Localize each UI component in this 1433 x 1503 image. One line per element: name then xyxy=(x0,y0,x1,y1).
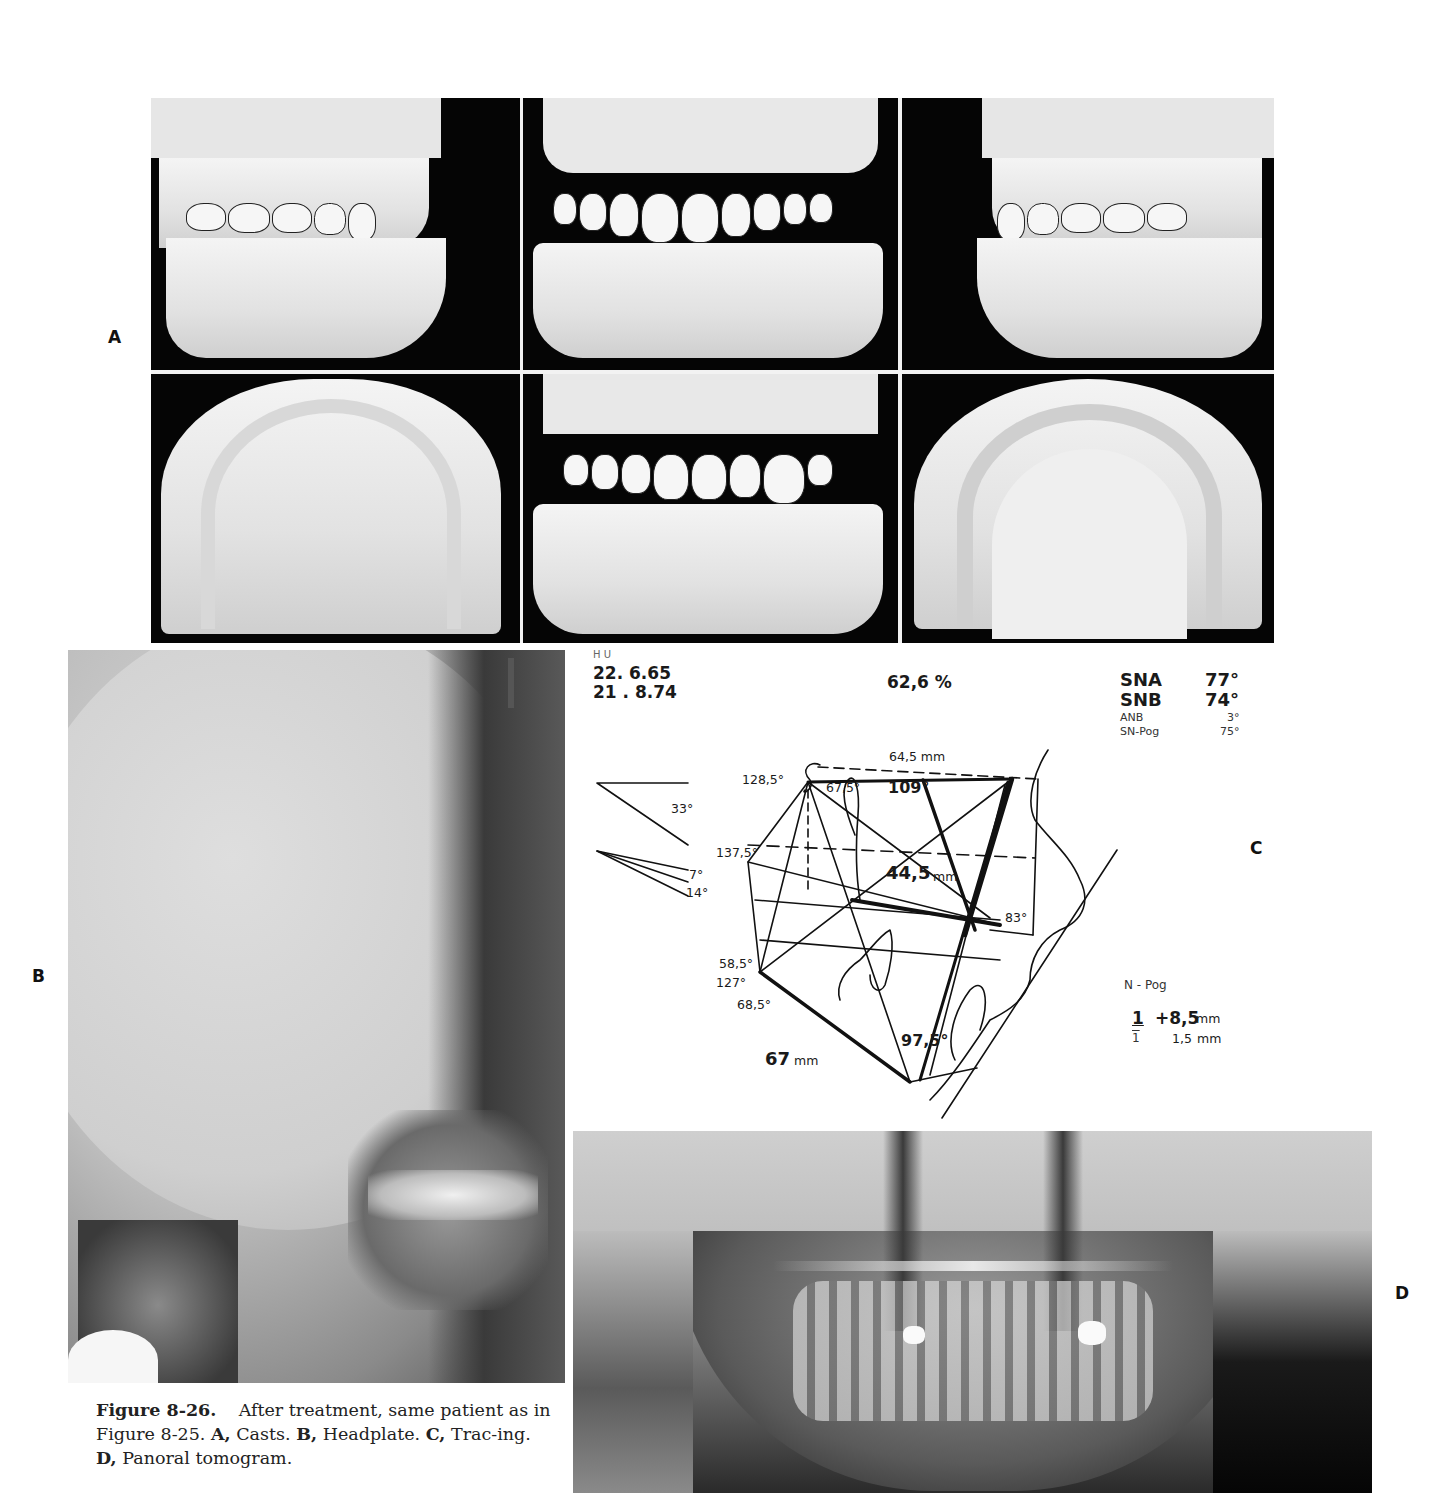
cast-left-lateral xyxy=(902,98,1274,370)
incisor-table-title: N - Pog xyxy=(1124,978,1167,992)
angle-legend-label: 33° xyxy=(671,801,693,816)
figure-caption: Figure 8-26. After treatment, same patie… xyxy=(96,1398,556,1470)
annotation-angle: 68,5° xyxy=(737,997,771,1012)
cast-right-lateral xyxy=(151,98,520,370)
annotation-top-length: 64,5 mm xyxy=(889,749,945,764)
incisor-lower: 1 xyxy=(1132,1031,1140,1045)
annotation-length-unit: mm xyxy=(933,869,957,884)
annotation-length: 67 xyxy=(765,1048,790,1069)
annotation-angle: 128,5° xyxy=(742,772,784,787)
incisor-upper-value: +8,5 xyxy=(1155,1008,1199,1028)
cephalometric-tracing: H U 22. 6.65 21 . 8.74 62,6 % SNA 77° SN… xyxy=(575,645,1275,1125)
annotation-angle: 67,5° xyxy=(826,780,860,795)
cast-frontal-alt xyxy=(523,374,898,643)
panel-label-a: A xyxy=(108,327,121,347)
figure-number: Figure 8-26. xyxy=(96,1400,216,1420)
panel-label-b: B xyxy=(32,966,45,986)
cast-mandibular-occlusal xyxy=(902,374,1274,643)
cast-frontal xyxy=(523,98,898,370)
incisor-upper: 1 xyxy=(1132,1008,1144,1028)
annotation-length: 44,5 xyxy=(886,862,930,883)
incisor-upper-unit: mm xyxy=(1196,1011,1220,1026)
caption-part-letter: D, xyxy=(96,1448,117,1468)
cast-photo-grid xyxy=(151,98,1274,643)
caption-part-text: Headplate. xyxy=(323,1424,420,1444)
incisor-lower-value: 1,5 xyxy=(1172,1031,1192,1046)
caption-part-text: Panoral tomogram. xyxy=(122,1448,292,1468)
annotation-angle: 97,5° xyxy=(901,1031,948,1050)
angle-legend-label: 7° xyxy=(689,867,703,882)
grid-divider xyxy=(151,370,1274,374)
caption-part-text: Trac-ing. xyxy=(451,1424,531,1444)
angle-legend-label: 14° xyxy=(686,885,708,900)
annotation-angle: 137,5° xyxy=(716,845,758,860)
annotation-angle: 109° xyxy=(888,778,929,797)
annotation-angle: 58,5° xyxy=(719,956,753,971)
cast-maxillary-occlusal xyxy=(151,374,520,643)
caption-part-letter: B, xyxy=(296,1424,317,1444)
caption-part-letter: A, xyxy=(211,1424,231,1444)
angle-legend-14 xyxy=(597,851,688,896)
panel-label-d: D xyxy=(1395,1283,1409,1303)
caption-part-text: Casts. xyxy=(236,1424,290,1444)
caption-part-letter: C, xyxy=(426,1424,446,1444)
tracing-drawing xyxy=(575,645,1275,1125)
cephalometric-headplate xyxy=(68,650,565,1383)
incisor-lower-unit: mm xyxy=(1197,1031,1221,1046)
annotation-length-unit: mm xyxy=(794,1053,818,1068)
panoral-tomogram xyxy=(573,1131,1372,1493)
annotation-angle: 83° xyxy=(1005,910,1027,925)
annotation-angle: 127° xyxy=(716,975,746,990)
